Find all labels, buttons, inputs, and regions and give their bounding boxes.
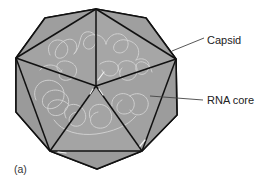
capsid-leader-line [172,38,204,51]
panel-label: (a) [14,163,27,175]
capsid-label: Capsid [207,34,241,46]
virus-diagram: Capsid RNA core (a) [0,0,265,189]
rna-core-label: RNA core [207,94,254,106]
